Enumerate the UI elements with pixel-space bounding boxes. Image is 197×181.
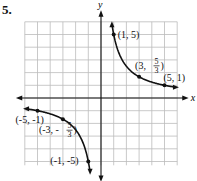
axes: xy: [16, 0, 196, 181]
point-label: (5, 1): [164, 72, 186, 84]
svg-text:): ): [161, 60, 164, 72]
svg-text:(-3, -: (-3, -: [39, 124, 59, 136]
data-point: [163, 83, 167, 87]
svg-text:): ): [74, 124, 77, 136]
svg-text:y: y: [97, 0, 103, 10]
svg-text:(3,: (3,: [135, 60, 146, 72]
svg-text:3: 3: [68, 130, 72, 139]
graph: xy (1, 5)(3, 53)(5, 1)(-5, -1)(-3, -53)(…: [0, 0, 197, 181]
data-point: [36, 109, 40, 113]
point-label: (-3, -53): [39, 121, 77, 139]
data-point: [137, 75, 141, 79]
svg-text:5: 5: [68, 121, 72, 130]
data-point: [61, 117, 65, 121]
svg-text:x: x: [190, 92, 196, 103]
point-label: (-1, -5): [50, 155, 78, 167]
point-label: (1, 5): [118, 29, 140, 41]
data-point: [112, 33, 116, 37]
svg-text:5: 5: [155, 57, 159, 66]
data-point: [86, 160, 90, 164]
svg-text:3: 3: [155, 66, 159, 75]
